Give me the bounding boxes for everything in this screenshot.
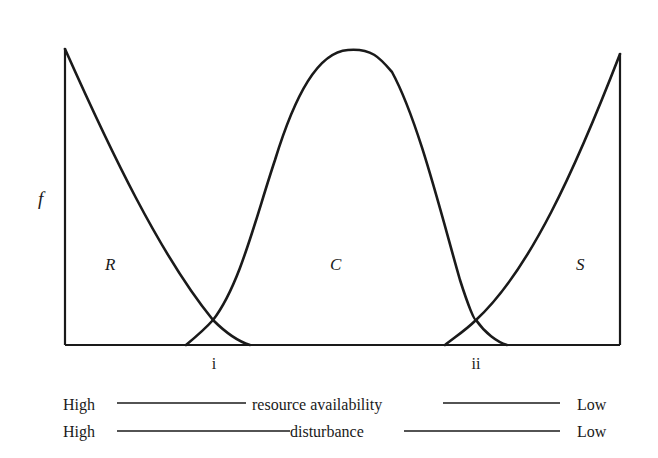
tick-label-i: i [212, 355, 217, 372]
region-label-s: S [576, 255, 585, 274]
row1-center-label: resource availability [252, 396, 382, 414]
curve-r [65, 49, 250, 345]
csr-strategy-chart: f R C S i ii High resource availability … [0, 0, 658, 458]
tick-label-ii: ii [472, 355, 481, 372]
curve-s [445, 54, 620, 345]
region-label-r: R [104, 255, 116, 274]
row1-right-label: Low [577, 396, 607, 413]
y-axis-label: f [38, 188, 46, 209]
row2-left-label: High [63, 423, 95, 441]
row2-center-label: disturbance [290, 423, 364, 440]
row2-right-label: Low [577, 423, 607, 440]
curve-c [186, 50, 507, 345]
row1-left-label: High [63, 396, 95, 414]
region-label-c: C [330, 255, 342, 274]
